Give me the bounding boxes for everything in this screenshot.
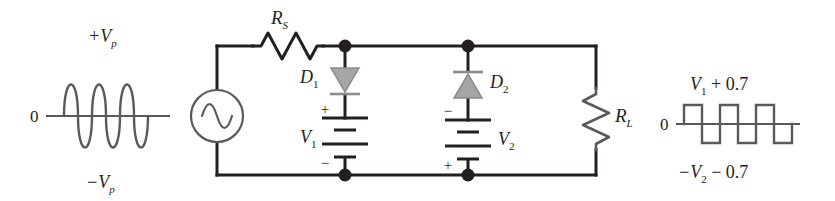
battery-v2-minus-sign: −	[444, 103, 452, 119]
junction-dots	[339, 40, 475, 182]
output-zero-label: 0	[660, 115, 669, 134]
battery-v2-label: V2	[498, 129, 515, 152]
output-lower-limit-label: −V2 − 0.7	[678, 162, 748, 185]
battery-v1-plus-sign: +	[321, 101, 329, 117]
diode-d1[interactable]	[330, 68, 360, 94]
battery-v1[interactable]	[322, 118, 368, 157]
resistor-rs-label: RS	[270, 7, 289, 31]
output-upper-limit-label: V1 + 0.7	[690, 74, 748, 97]
diode-d2-triangle	[454, 74, 482, 98]
diode-d2-label: D2	[489, 72, 509, 95]
circuit-wiring	[217, 46, 596, 175]
resistor-rs[interactable]	[253, 33, 323, 59]
resistor-rl[interactable]	[583, 88, 609, 150]
diode-d1-label: D1	[299, 67, 319, 90]
junction-dot-top-right	[462, 40, 475, 53]
battery-v1-minus-sign: −	[321, 155, 329, 171]
battery-v2[interactable]	[445, 120, 491, 159]
figure-canvas: 0 +Vp −Vp RS RL D1 D2 V1 V2	[0, 0, 835, 201]
diode-d2[interactable]	[453, 72, 483, 98]
resistor-rs-zigzag	[253, 33, 323, 59]
input-positive-peak-label: +Vp	[88, 26, 117, 49]
input-zero-label: 0	[30, 107, 39, 126]
resistor-rl-zigzag	[583, 88, 609, 150]
input-negative-peak-label: −Vp	[86, 172, 115, 195]
ac-source[interactable]	[191, 90, 243, 142]
junction-dot-top-left	[339, 40, 352, 53]
junction-dot-bottom-left	[339, 169, 352, 182]
battery-v1-label: V1	[300, 127, 317, 150]
resistor-rl-label: RL	[614, 105, 633, 129]
circuit-figure: 0 +Vp −Vp RS RL D1 D2 V1 V2	[0, 0, 835, 201]
junction-dot-bottom-right	[462, 169, 475, 182]
input-sine-wave	[46, 85, 170, 148]
output-clipped-wave	[676, 105, 800, 143]
diode-d1-triangle	[331, 68, 359, 92]
battery-v2-plus-sign: +	[444, 157, 452, 173]
